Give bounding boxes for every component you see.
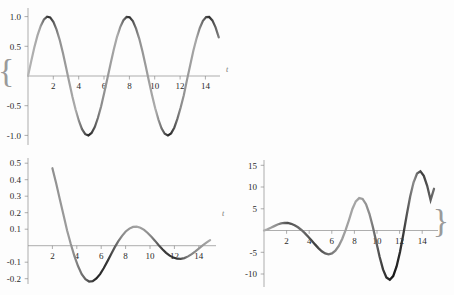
chart-growing-curve: [264, 171, 434, 279]
x-tick-label: 8: [127, 81, 132, 91]
chart-damped-yticks: 0.5 0.4 0.3 0.2 0.1 -0.1 -0.2: [7, 158, 28, 284]
x-tick-label: 2: [51, 81, 56, 91]
left-curly-brace-annotation: {: [0, 54, 14, 88]
y-tick-label: 1.0: [10, 12, 22, 22]
chart-damped: 2 4 6 8 10 12 14 0.5 0.4 0.3 0.2 0.: [2, 152, 230, 292]
x-tick-label: 6: [99, 251, 104, 261]
x-axis-label: t: [226, 65, 229, 74]
y-tick-label: 0.3: [10, 191, 22, 201]
x-tick-label: 8: [123, 251, 128, 261]
y-tick-label: 0.4: [10, 175, 22, 185]
chart-sine-canvas: 2 4 6 8 10 12 14 1.0 0.5 -0.5 -1.0 t: [2, 2, 234, 150]
y-tick-label: 0.5: [10, 158, 22, 168]
y-tick-label: -5: [250, 248, 258, 258]
x-tick-label: 10: [146, 251, 156, 261]
x-tick-label: 2: [50, 251, 55, 261]
x-axis-label: t: [222, 209, 225, 218]
y-tick-label: -10: [245, 269, 257, 279]
chart-growing-yticks: 15 10 5 -5 -10: [245, 161, 264, 280]
chart-growing: 2 4 6 8 10 12 14 15 10 5 -5 -10: [236, 152, 446, 292]
x-tick-label: 8: [352, 236, 357, 246]
y-tick-label: 0.2: [10, 208, 21, 218]
x-tick-label: 14: [194, 251, 204, 261]
chart-damped-canvas: 2 4 6 8 10 12 14 0.5 0.4 0.3 0.2 0.: [2, 152, 230, 292]
x-tick-label: 14: [418, 236, 428, 246]
y-tick-label: -0.2: [7, 274, 21, 284]
x-tick-label: 14: [201, 81, 211, 91]
y-tick-label: 5: [253, 204, 258, 214]
plot-figure: 2 4 6 8 10 12 14 1.0 0.5 -0.5 -1.0 t {: [0, 0, 454, 295]
x-tick-label: 6: [330, 236, 335, 246]
right-curly-brace-annotation: }: [433, 204, 449, 238]
y-tick-label: 10: [248, 182, 258, 192]
y-tick-label: -1.0: [7, 131, 22, 141]
y-tick-label: 0.1: [10, 224, 21, 234]
y-tick-label: 15: [248, 161, 258, 171]
x-tick-label: 2: [284, 236, 289, 246]
chart-growing-canvas: 2 4 6 8 10 12 14 15 10 5 -5 -10: [236, 152, 446, 292]
y-tick-label: -0.5: [7, 101, 22, 111]
x-tick-label: 4: [76, 81, 81, 91]
y-tick-label: -0.1: [7, 257, 21, 267]
y-tick-label: 0.5: [10, 42, 22, 52]
chart-damped-curve: [52, 168, 210, 281]
chart-sine: 2 4 6 8 10 12 14 1.0 0.5 -0.5 -1.0 t {: [2, 2, 234, 150]
x-tick-label: 12: [176, 81, 185, 91]
chart-damped-axes: [28, 158, 216, 284]
